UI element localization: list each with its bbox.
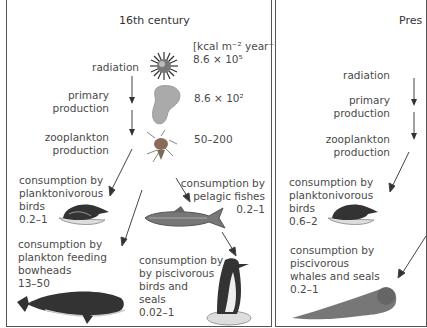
seal-icon [290,282,400,322]
whales-seals-text-1: consumption by [290,244,374,257]
panel-16th-century: 16th century [kcal m⁻² year⁻¹] 8.6 × 10⁵… [6,0,272,327]
plank-birds-text-3: birds [19,200,45,213]
pelagic-fish-text-1: consumption by [157,177,265,190]
plank-birds-text-3: birds [289,202,315,215]
pisc-birds-text-3: birds and [139,280,188,293]
bowheads-text-1: consumption by [18,238,102,251]
plank-birds-value: 0.2–1 [19,213,48,226]
bowhead-whale-icon [15,288,127,324]
pisc-birds-text-4: seals [139,293,166,306]
plank-birds-value: 0.6–2 [289,215,318,228]
pelagic-fish-text-2: pelagic fishes [157,190,265,203]
great-auk-icon [203,256,259,326]
auklet-bird-icon [324,200,380,230]
auklet-bird-icon [55,200,111,230]
whales-seals-text-2: piscivorous [290,257,349,270]
plank-birds-text-1: consumption by [289,176,373,189]
plank-birds-text-2: planktonivorous [19,187,103,200]
pisc-birds-value: 0.02–1 [139,306,174,319]
bowheads-text-2: plankton feeding [18,251,107,264]
panel-present: Pres radiation primary production zoopla… [275,0,427,327]
plank-birds-text-1: consumption by [19,174,103,187]
herring-fish-icon [143,206,227,232]
bowheads-text-3: bowheads [18,264,71,277]
